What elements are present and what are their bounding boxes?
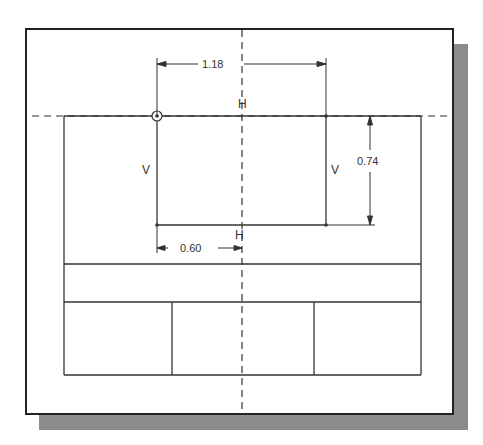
arrowhead-icon [234, 246, 242, 251]
arrowhead-icon [368, 116, 373, 125]
sketch-canvas [0, 0, 483, 445]
arrowhead-icon [157, 246, 165, 251]
arrowhead-icon [317, 62, 326, 67]
dimension-width-label[interactable]: 1.18 [202, 58, 223, 70]
arrowhead-icon [157, 62, 166, 67]
constraint-vertical-left[interactable]: V [142, 164, 150, 176]
arrowhead-icon [368, 216, 373, 225]
constraint-vertical-right[interactable]: V [331, 164, 339, 176]
dimension-height-label[interactable]: 0.74 [357, 155, 378, 167]
constraint-horizontal-bottom[interactable]: H [235, 229, 244, 241]
dimension-offset-label[interactable]: 0.60 [180, 242, 201, 254]
constraint-horizontal-top[interactable]: H [238, 98, 247, 110]
